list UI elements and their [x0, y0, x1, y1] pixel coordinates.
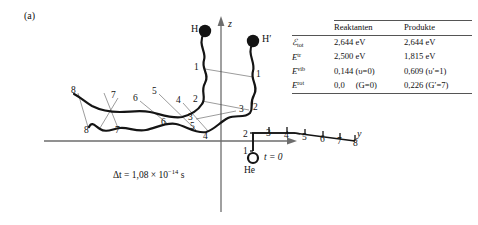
cell-reaktanten: 2,500 eV: [334, 50, 404, 64]
cell-reaktanten: 0,0(G=0): [334, 78, 404, 93]
h-mark-4: 4: [176, 96, 181, 106]
table-header-produkte: Produkte: [404, 21, 472, 36]
cell-reaktanten-quantum: (G=0): [356, 80, 377, 90]
delta-t-exponent: −14: [168, 168, 178, 175]
h-mark-1: 1: [194, 63, 199, 73]
he-tick-7: 7: [337, 136, 342, 146]
cell-produkte: 0,609 (υ′=1): [404, 64, 472, 78]
h-prime-atom-marker: [247, 35, 259, 47]
row-label-sup: rot: [297, 79, 304, 86]
cell-produkte: 0,226 (G′=7): [404, 78, 472, 93]
h-mark-8: 8: [71, 86, 76, 96]
energy-table: Reaktanten Produkte ℰtot 2,644 eV 2,644 …: [292, 20, 472, 94]
row-label-sup: tr: [297, 51, 301, 58]
trajectory-plot: [0, 0, 300, 225]
h-prime-atom-label: H′: [262, 33, 271, 44]
h-trajectory: [74, 33, 207, 117]
table-row: Etr 2,500 eV 1,815 eV: [292, 50, 472, 64]
table-row: ℰtot 2,644 eV 2,644 eV: [292, 36, 472, 50]
h-prime-mark-3: 3: [239, 105, 244, 115]
row-label-sup: vib: [297, 65, 305, 72]
h-prime-mark-6: 6: [161, 118, 166, 128]
he-tick-2: 2: [243, 129, 248, 139]
h-prime-mark-1: 1: [256, 70, 261, 80]
h-atom-label: H: [191, 23, 198, 34]
h-prime-mark-2: 2: [253, 103, 258, 113]
h-prime-mark-5: 5: [190, 122, 195, 132]
delta-t-caption: Δt = 1,08 × 10−14 s: [113, 168, 184, 180]
row-label-etr: Etr: [292, 50, 334, 64]
cell-reaktanten-value: 0,0: [334, 80, 345, 90]
cell-produkte: 2,644 eV: [404, 36, 472, 50]
row-label-erot: Erot: [292, 78, 334, 93]
cell-reaktanten: 0,144 (υ=0): [334, 64, 404, 78]
t-zero-label: t = 0: [264, 152, 283, 162]
he-tick-1: 1: [243, 146, 248, 156]
delta-t-prefix: Δt = 1,08 × 10: [113, 170, 168, 180]
table-header-row: Reaktanten Produkte: [292, 21, 472, 36]
h-mark-7: 7: [111, 91, 116, 101]
h-prime-mark-7: 7: [115, 126, 120, 136]
row-label-sub: tot: [297, 41, 304, 48]
table-header-blank: [292, 21, 334, 36]
he-tick-5: 5: [302, 132, 307, 142]
row-label-etot: ℰtot: [292, 36, 334, 50]
he-tick-4: 4: [284, 130, 289, 140]
h-prime-mark-4: 4: [203, 132, 208, 142]
he-track-extension: [250, 120, 390, 170]
h-atom-marker: [199, 25, 211, 37]
he-tick-3: 3: [266, 128, 271, 138]
delta-t-suffix: s: [178, 170, 184, 180]
he-tick-6: 6: [320, 134, 325, 144]
table-header-reaktanten: Reaktanten: [334, 21, 404, 36]
he-tick-8: 8: [353, 138, 358, 148]
cell-produkte: 1,815 eV: [404, 50, 472, 64]
he-atom-label: He: [244, 165, 255, 175]
h-mark-2: 2: [193, 95, 198, 105]
h-mark-5: 5: [152, 87, 157, 97]
z-axis-label: z: [228, 18, 232, 29]
h-mark-6: 6: [133, 94, 138, 104]
table-row: Evib 0,144 (υ=0) 0,609 (υ′=1): [292, 64, 472, 78]
h-prime-trajectory: [89, 43, 256, 132]
h-prime-mark-8: 8: [84, 126, 89, 136]
row-label-evib: Evib: [292, 64, 334, 78]
cell-reaktanten: 2,644 eV: [334, 36, 404, 50]
table-row: Erot 0,0(G=0) 0,226 (G′=7): [292, 78, 472, 93]
